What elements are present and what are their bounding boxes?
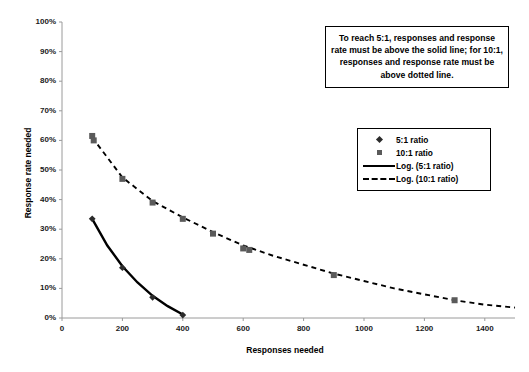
x-tick-label: 1200 [404, 324, 444, 333]
y-tick-label: 10% [18, 283, 56, 292]
legend-item-10-1-ratio: 10:1 ratio [362, 146, 486, 159]
x-tick-label: 200 [102, 324, 142, 333]
legend-item-5-1-ratio: 5:1 ratio [362, 133, 486, 146]
data-point-marker [210, 231, 216, 237]
y-tick-label: 0% [18, 313, 56, 322]
y-tick-label: 90% [18, 47, 56, 56]
x-tick-label: 800 [284, 324, 324, 333]
legend-item-log-10-1: Log. (10:1 ratio) [362, 172, 486, 185]
dashed-line-icon [362, 178, 396, 180]
solid-line-icon [362, 165, 396, 167]
x-tick-label: 1400 [465, 324, 505, 333]
x-axis-title: Responses needed [60, 345, 510, 355]
square-marker-icon [362, 150, 396, 155]
trendline-5-1 [92, 219, 183, 315]
data-point-marker [452, 297, 458, 303]
x-tick-label: 0 [42, 324, 82, 333]
data-point-marker [119, 176, 125, 182]
diamond-marker-icon [362, 137, 396, 142]
legend-item-log-5-1: Log. (5:1 ratio) [362, 159, 486, 172]
data-point-marker [180, 216, 186, 222]
x-tick-label: 400 [163, 324, 203, 333]
y-axis-title: Response rate needed [23, 103, 33, 243]
data-point-marker [240, 245, 246, 251]
legend-label: 5:1 ratio [396, 135, 428, 145]
data-point-marker [150, 200, 156, 206]
legend-label: 10:1 ratio [396, 148, 433, 158]
legend-label: Log. (5:1 ratio) [396, 161, 454, 171]
data-points-5-1 [89, 215, 186, 318]
data-point-marker [246, 247, 252, 253]
chart-container: 0%10%20%30%40%50%60%70%80%90%100% 020040… [0, 0, 529, 372]
y-tick-label: 80% [18, 76, 56, 85]
data-point-marker [91, 137, 97, 143]
y-tick-label: 20% [18, 254, 56, 263]
threshold-note-box: To reach 5:1, responses and response rat… [325, 26, 509, 88]
y-tick-label: 100% [18, 17, 56, 26]
legend-label: Log. (10:1 ratio) [396, 174, 458, 184]
x-tick-label: 600 [223, 324, 263, 333]
chart-legend: 5:1 ratio 10:1 ratio Log. (5:1 ratio) Lo… [357, 128, 491, 191]
data-point-marker [331, 272, 337, 278]
x-tick-label: 1000 [344, 324, 384, 333]
